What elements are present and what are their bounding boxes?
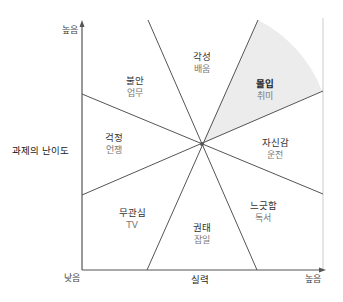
zone-activity: 잡일 (193, 234, 211, 247)
zone-activity: 운전 (262, 149, 289, 162)
zone-state: 각성 (193, 50, 211, 63)
zone-apathy: 무관심 TV (119, 206, 146, 232)
zone-activity: 취미 (256, 90, 274, 103)
zone-activity: 배움 (193, 63, 211, 76)
zone-state: 권태 (193, 221, 211, 234)
zone-state: 불안 (126, 74, 144, 87)
zone-relaxation: 느긋함 독서 (250, 199, 277, 225)
y-axis-low-label: 낮음 (64, 273, 80, 284)
zone-activity: 독서 (250, 212, 277, 225)
y-axis-title: 과제의 난이도 (12, 143, 69, 157)
zone-state: 자신감 (262, 136, 289, 149)
x-axis-high-label: 높음 (305, 274, 321, 285)
zone-worry: 걱정 언쟁 (105, 131, 123, 157)
center-point (200, 142, 204, 146)
zone-anxiety: 불안 업무 (126, 74, 144, 100)
zone-activity: 업무 (126, 87, 144, 100)
y-axis-arrow-icon (80, 20, 85, 27)
zone-state: 몰입 (256, 77, 274, 90)
zone-activity: TV (119, 219, 146, 232)
zone-state: 무관심 (119, 206, 146, 219)
zone-control: 자신감 운전 (262, 136, 289, 162)
zone-flow: 몰입 취미 (256, 77, 274, 103)
x-axis-title: 실력 (191, 274, 209, 285)
zone-arousal: 각성 배움 (193, 50, 211, 76)
zone-boredom: 권태 잡일 (193, 221, 211, 247)
zone-activity: 언쟁 (105, 144, 123, 157)
zone-state: 느긋함 (250, 199, 277, 212)
y-axis-high-label: 높음 (62, 25, 78, 36)
zone-state: 걱정 (105, 131, 123, 144)
